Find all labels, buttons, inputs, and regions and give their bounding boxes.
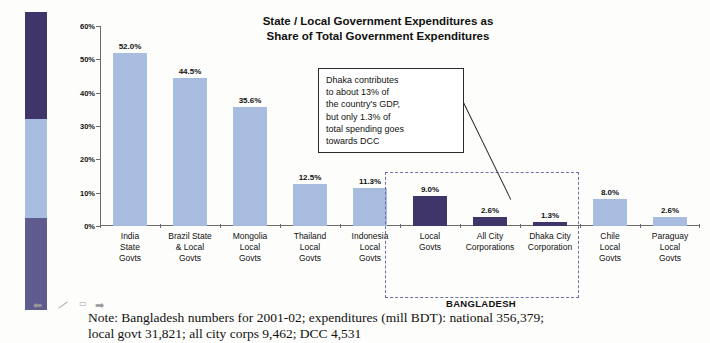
x-axis-tick-mark [340, 224, 341, 228]
decorative-color-strip [25, 12, 47, 310]
callout-box: Dhaka contributes to about 13% of the co… [318, 68, 464, 153]
bar-value-label: 44.5% [179, 67, 202, 76]
x-axis-label-cell: ThailandLocalGovts [280, 228, 340, 250]
bar[interactable]: 2.6% [653, 217, 687, 226]
bar[interactable]: 8.0% [593, 199, 627, 226]
callout-line-6: towards DCC [326, 135, 456, 147]
y-axis-tick-label: 60% [80, 22, 95, 31]
bar[interactable]: 44.5% [173, 78, 207, 226]
strip-segment-light [25, 119, 47, 217]
bar-value-label: 35.6% [239, 96, 262, 105]
bar[interactable]: 12.5% [293, 184, 327, 226]
bar[interactable]: 35.6% [233, 107, 267, 226]
x-axis-label-line: Local [633, 242, 707, 253]
x-axis-tick-mark [100, 224, 101, 228]
footnote-line-1: Note: Bangladesh numbers for 2001-02; ex… [88, 310, 704, 326]
y-axis-tick-label: 20% [80, 155, 95, 164]
bangladesh-group-label: BANGLADESH [385, 298, 577, 309]
y-axis-tick-label: 50% [80, 55, 95, 64]
bar-group[interactable]: 52.0% [100, 26, 160, 226]
bar-value-label: 11.3% [359, 177, 381, 186]
x-axis-tick-mark [580, 224, 581, 228]
bar-value-label: 12.5% [299, 173, 322, 182]
x-axis-tick-mark [640, 224, 641, 228]
bar-group[interactable]: 44.5% [160, 26, 220, 226]
bar-value-label: 8.0% [601, 188, 619, 197]
x-axis-label-cell: ChileLocalGovts [580, 228, 640, 250]
bar[interactable]: 11.3% [353, 188, 387, 226]
y-axis-tick-label: 0% [84, 222, 95, 231]
callout-line-5: total spending goes [326, 123, 456, 135]
callout-line-1: Dhaka contributes [326, 74, 456, 86]
x-axis-label-cell: MongoliaLocalGovts [220, 228, 280, 250]
strip-segment-mid [25, 218, 47, 310]
y-axis-tick-label: 30% [80, 122, 95, 131]
x-axis-tick-mark [280, 224, 281, 228]
footnote: Note: Bangladesh numbers for 2001-02; ex… [88, 310, 704, 342]
bar-value-label: 52.0% [119, 42, 142, 51]
x-axis-tick-mark [220, 224, 221, 228]
x-axis-label-cell: Brazil State& LocalGovts [160, 228, 220, 250]
bar-group[interactable]: 2.6% [640, 26, 700, 226]
scan-artifact-dash: — [55, 297, 70, 312]
callout-line-4: but only 1.3% of [326, 111, 456, 123]
x-axis-label-cell: IndiaStateGovts [100, 228, 160, 250]
callout-line-3: the country's GDP, [326, 98, 456, 110]
bar-group[interactable]: 35.6% [220, 26, 280, 226]
y-axis-tick-label: 10% [80, 188, 95, 197]
x-axis-label-line: Paraguay [633, 231, 707, 242]
callout-line-2: to about 13% of [326, 86, 456, 98]
bar-value-label: 2.6% [661, 206, 679, 215]
x-axis-label-cell: ParaguayLocalGovts [640, 228, 700, 250]
x-axis-tick-mark [160, 224, 161, 228]
bar[interactable]: 52.0% [113, 53, 147, 226]
scan-artifact-box: ▭ [79, 300, 87, 308]
strip-segment-dark [25, 12, 47, 119]
footnote-line-2: local govt 31,821; all city corps 9,462;… [88, 326, 704, 342]
x-axis-label-line: Govts [633, 253, 707, 264]
scan-artifact-arrow-left: ⬅ [33, 300, 42, 311]
y-axis-tick-label: 40% [80, 88, 95, 97]
x-axis-tick-mark [699, 224, 700, 228]
chart-page: ⬅ — ▭ ➡ State / Local Government Expendi… [0, 0, 710, 343]
bar-group[interactable]: 8.0% [580, 26, 640, 226]
bangladesh-region-outline [385, 172, 579, 298]
x-axis-label: ParaguayLocalGovts [633, 231, 707, 264]
